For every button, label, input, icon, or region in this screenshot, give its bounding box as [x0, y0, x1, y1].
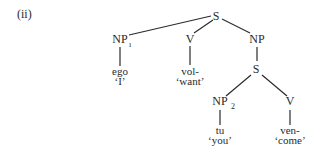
edge-s-v1	[194, 20, 213, 33]
edge-s-np2	[226, 75, 251, 96]
edge-s-np1	[129, 16, 211, 35]
node-np1-index: ı	[129, 40, 132, 49]
node-np2: NP	[212, 94, 228, 108]
node-v2: V	[286, 94, 295, 108]
node-s-embedded: S	[253, 62, 260, 76]
node-np1: NP	[112, 32, 128, 46]
leaf-gloss-you: ‘you’	[208, 134, 232, 146]
node-v1: V	[186, 32, 195, 46]
node-np2-index: 2	[231, 102, 235, 111]
leaf-gloss-want: ‘want’	[176, 75, 205, 87]
node-s-root: S	[213, 9, 220, 23]
example-label: (ii)	[17, 7, 32, 21]
leaf-gloss-come: ‘come’	[274, 134, 305, 146]
leaf-gloss-i: ‘I’	[115, 75, 126, 87]
edge-s-np	[222, 19, 250, 33]
syntax-tree-diagram: (ii) S NP ı V NP S NP 2 V ego ‘I’ vol- ‘…	[0, 0, 322, 153]
node-np-complement: NP	[249, 32, 265, 46]
edge-s-v2	[262, 75, 287, 96]
